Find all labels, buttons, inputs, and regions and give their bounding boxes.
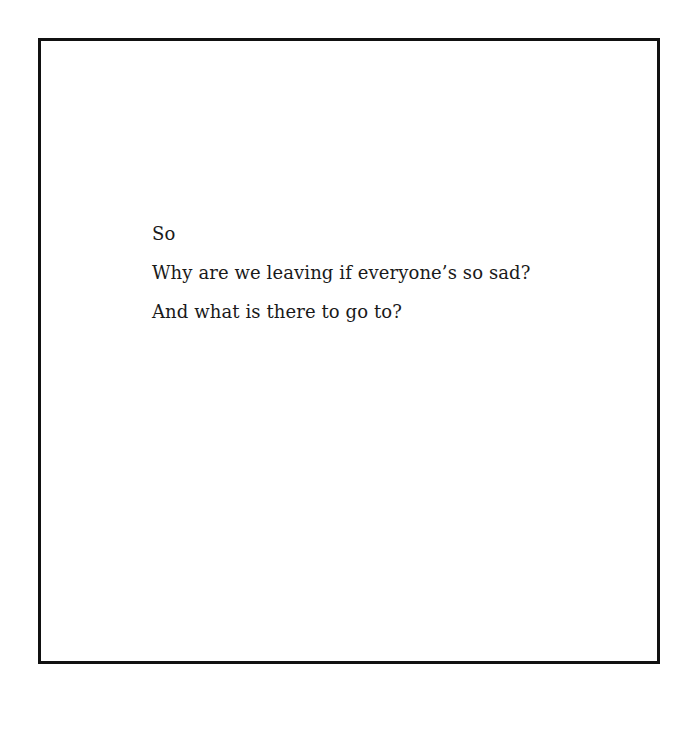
text-line-3: And what is there to go to? [152, 292, 530, 331]
text-line-1: So [152, 214, 530, 253]
page-frame: So Why are we leaving if everyone’s so s… [38, 38, 660, 664]
text-line-2: Why are we leaving if everyone’s so sad? [152, 253, 530, 292]
poem-text: So Why are we leaving if everyone’s so s… [152, 214, 530, 331]
